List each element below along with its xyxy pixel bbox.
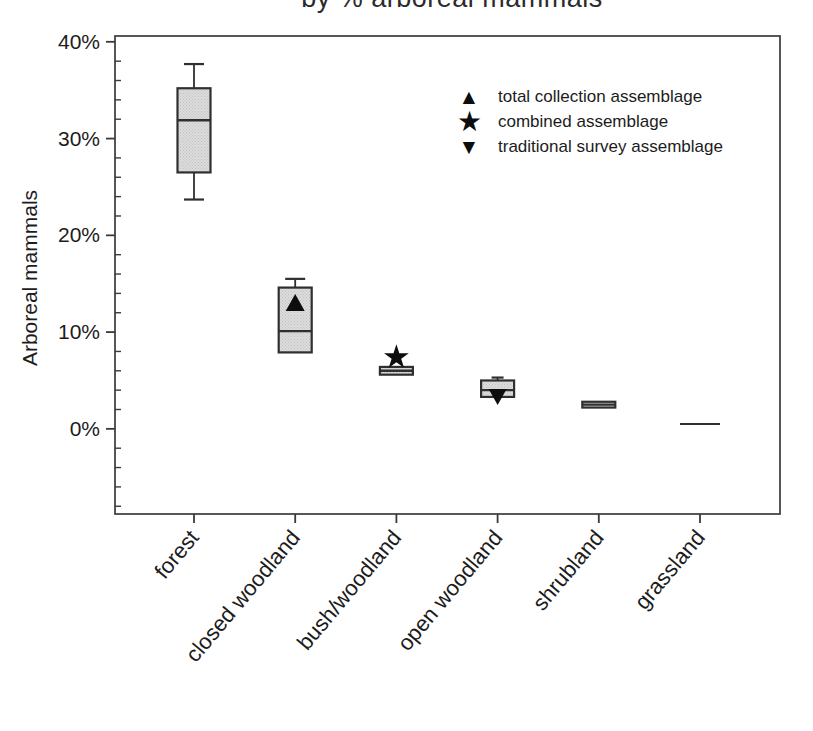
x-tick-label-forest: forest bbox=[149, 525, 204, 583]
y-tick-label: 10% bbox=[58, 320, 100, 343]
box-rect bbox=[178, 88, 211, 172]
legend-label: combined assemblage bbox=[498, 112, 668, 132]
box-plot-closed-woodland bbox=[279, 279, 312, 353]
x-tick-label-shrubland: shrubland bbox=[527, 525, 608, 615]
legend-item-traditional-survey: ▼ traditional survey assemblage bbox=[452, 134, 723, 159]
triangle-up-icon: ▲ bbox=[452, 86, 486, 107]
x-tick-label-open-woodland: open woodland bbox=[392, 525, 507, 655]
legend: ▲ total collection assemblage ★ combined… bbox=[452, 84, 723, 159]
y-tick-label: 40% bbox=[58, 30, 100, 53]
box-plot-forest bbox=[178, 64, 211, 199]
x-tick-label-bush-woodland: bush/woodland bbox=[292, 525, 406, 654]
y-tick-label: 0% bbox=[70, 417, 100, 440]
star-icon: ★ bbox=[452, 108, 486, 136]
y-tick-label: 30% bbox=[58, 127, 100, 150]
y-tick-label: 20% bbox=[58, 223, 100, 246]
legend-label: total collection assemblage bbox=[498, 87, 702, 107]
legend-label: traditional survey assemblage bbox=[498, 137, 723, 157]
box-plot-bush-woodland bbox=[380, 367, 413, 375]
box-plot-shrubland bbox=[582, 402, 615, 408]
x-tick-label-grassland: grassland bbox=[629, 525, 709, 614]
legend-item-combined: ★ combined assemblage bbox=[452, 109, 723, 134]
marker-star bbox=[384, 344, 409, 368]
triangle-down-icon: ▼ bbox=[452, 136, 486, 157]
boxplot-figure: by % arboreal mammals Arboreal mammals 0… bbox=[0, 0, 813, 731]
legend-item-total-collection: ▲ total collection assemblage bbox=[452, 84, 723, 109]
